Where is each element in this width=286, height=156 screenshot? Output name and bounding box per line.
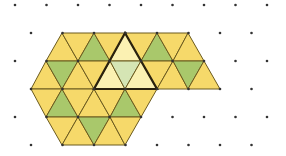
grid-dot <box>187 144 190 147</box>
grid-dot <box>93 88 96 91</box>
grid-dot <box>156 88 159 91</box>
grid-dot <box>140 4 143 7</box>
grid-dot <box>124 88 127 91</box>
triangle-tessellation-diagram <box>0 0 286 156</box>
grid-dot <box>14 60 17 63</box>
grid-dot <box>187 32 190 35</box>
grid-dot <box>250 88 253 91</box>
grid-dot <box>219 32 222 35</box>
grid-dot <box>14 4 17 7</box>
grid-dot <box>266 116 269 119</box>
grid-dot <box>61 32 64 35</box>
grid-dot <box>77 4 80 7</box>
grid-dot <box>140 60 143 63</box>
grid-dot <box>171 60 174 63</box>
grid-dot <box>14 116 17 119</box>
grid-dot <box>234 4 237 7</box>
grid-dot <box>219 88 222 91</box>
grid-dot <box>30 32 33 35</box>
grid-dot <box>171 116 174 119</box>
grid-dot <box>108 4 111 7</box>
grid-dot <box>30 144 33 147</box>
grid-dot <box>187 88 190 91</box>
grid-dot <box>45 4 48 7</box>
grid-dot <box>140 116 143 119</box>
grid-dot <box>45 116 48 119</box>
grid-dot <box>203 116 206 119</box>
grid-dot <box>266 60 269 63</box>
grid-dot <box>93 144 96 147</box>
grid-dot <box>171 4 174 7</box>
grid-dot <box>234 60 237 63</box>
grid-dot <box>108 60 111 63</box>
grid-dot <box>250 144 253 147</box>
grid-dot <box>61 144 64 147</box>
grid-dot <box>156 144 159 147</box>
grid-dot <box>203 60 206 63</box>
grid-dot <box>203 4 206 7</box>
grid-dot <box>45 60 48 63</box>
grid-dot <box>108 116 111 119</box>
grid-dot <box>156 32 159 35</box>
grid-dot <box>219 144 222 147</box>
grid-dot <box>77 116 80 119</box>
grid-dot <box>234 116 237 119</box>
grid-dot <box>124 32 127 35</box>
grid-dot <box>93 32 96 35</box>
grid-dot <box>124 144 127 147</box>
grid-dot <box>77 60 80 63</box>
grid-dot <box>30 88 33 91</box>
grid-dot <box>61 88 64 91</box>
grid-dot <box>266 4 269 7</box>
grid-dot <box>250 32 253 35</box>
